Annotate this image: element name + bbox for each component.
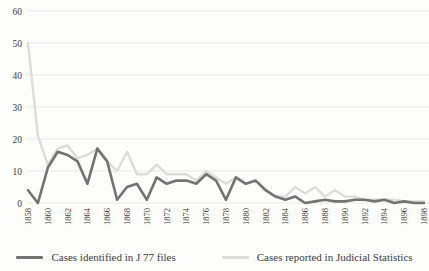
svg-text:0: 0 xyxy=(17,199,22,209)
svg-text:1866: 1866 xyxy=(102,208,112,225)
chart-legend: Cases identified in J 77 files Cases rep… xyxy=(0,251,429,263)
svg-text:1868: 1868 xyxy=(122,208,132,225)
line-chart: 0102030405060 18581860186218641866186818… xyxy=(0,0,429,271)
svg-text:1892: 1892 xyxy=(360,208,370,225)
svg-text:1898: 1898 xyxy=(419,208,429,225)
legend-label-j77: Cases identified in J 77 files xyxy=(51,251,175,263)
svg-text:1880: 1880 xyxy=(241,208,251,225)
y-axis-tick-labels: 0102030405060 xyxy=(13,7,23,209)
svg-text:30: 30 xyxy=(13,103,23,113)
svg-text:50: 50 xyxy=(13,39,23,49)
svg-text:40: 40 xyxy=(13,71,23,81)
series-lines xyxy=(28,43,424,203)
legend-swatch-j77-line xyxy=(16,256,43,259)
svg-text:1860: 1860 xyxy=(43,208,53,225)
series-line xyxy=(28,149,424,203)
svg-text:1870: 1870 xyxy=(142,208,152,225)
svg-text:1858: 1858 xyxy=(23,208,33,225)
x-axis-tick-labels: 1858186018621864186618681870187218741876… xyxy=(23,207,429,225)
svg-text:60: 60 xyxy=(13,7,23,17)
svg-text:1882: 1882 xyxy=(261,208,271,225)
line-chart-figure: 0102030405060 18581860186218641866186818… xyxy=(0,0,429,271)
svg-text:10: 10 xyxy=(13,167,23,177)
svg-text:1896: 1896 xyxy=(399,208,409,225)
svg-text:1864: 1864 xyxy=(82,207,92,225)
svg-text:20: 20 xyxy=(13,135,23,145)
svg-text:1886: 1886 xyxy=(300,208,310,225)
svg-text:1894: 1894 xyxy=(379,207,389,225)
svg-text:1878: 1878 xyxy=(221,208,231,225)
series-line xyxy=(28,43,424,201)
svg-text:1862: 1862 xyxy=(63,208,73,225)
legend-swatch-judicial-statistics-line xyxy=(222,256,249,259)
gridlines xyxy=(27,11,429,203)
legend-label-judicial-statistics: Cases reported in Judicial Statistics xyxy=(257,251,413,263)
legend-item-j77: Cases identified in J 77 files xyxy=(16,251,175,263)
svg-text:1888: 1888 xyxy=(320,208,330,225)
svg-text:1874: 1874 xyxy=(181,207,191,225)
svg-text:1876: 1876 xyxy=(201,208,211,225)
svg-text:1884: 1884 xyxy=(280,207,290,225)
legend-item-judicial-statistics: Cases reported in Judicial Statistics xyxy=(222,251,413,263)
svg-text:1872: 1872 xyxy=(162,208,172,225)
svg-text:1890: 1890 xyxy=(340,208,350,225)
